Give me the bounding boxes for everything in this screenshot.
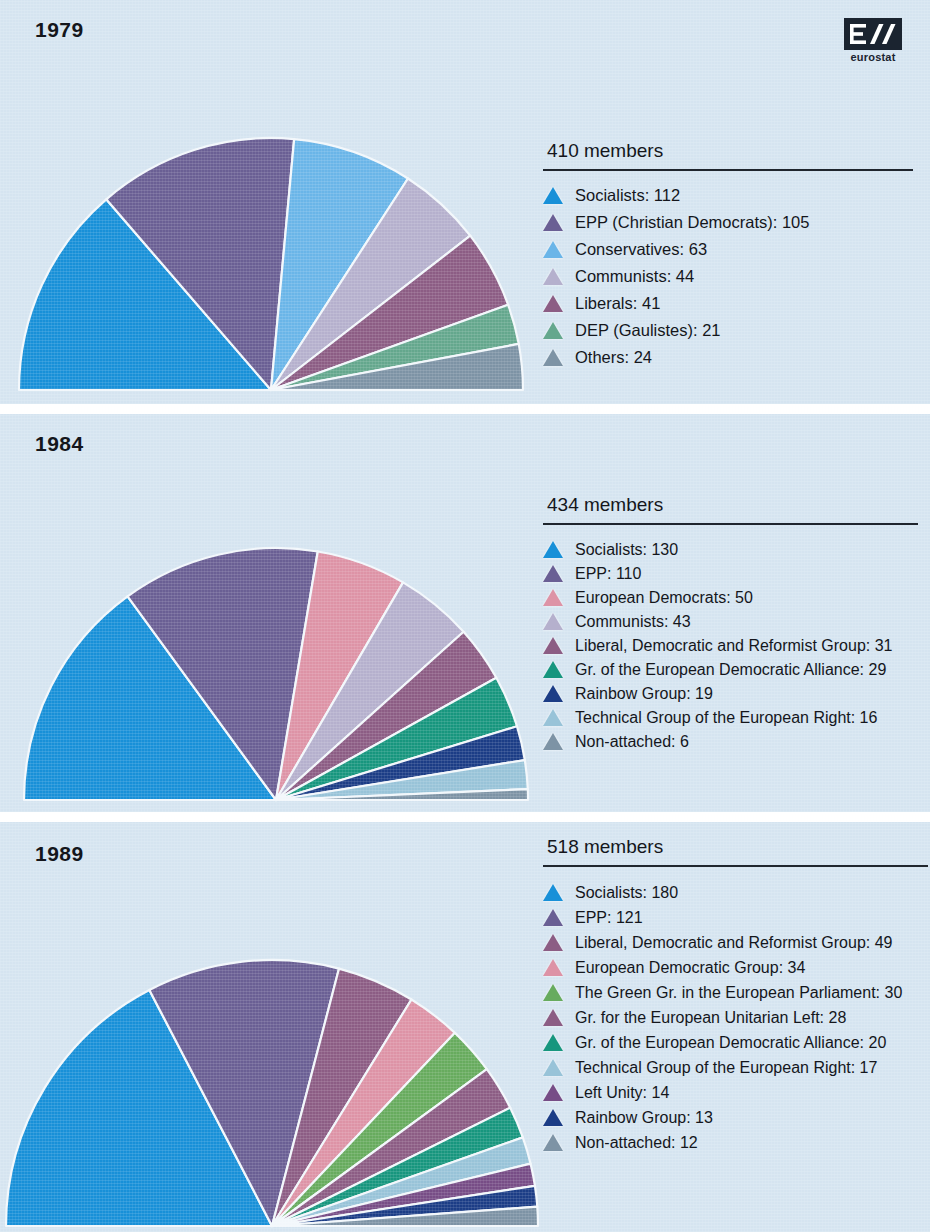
legend-item-label: Gr. of the European Democratic Alliance:… [575, 1034, 886, 1052]
legend-item-label: Left Unity: 14 [575, 1084, 669, 1102]
legend-item[interactable]: Socialists: 112 [543, 184, 913, 207]
legend-item-label: Socialists: 180 [575, 884, 678, 902]
members-total-1984: 434 members [547, 494, 918, 516]
legend-item-label: Rainbow Group: 13 [575, 1109, 713, 1127]
legend-item[interactable]: Socialists: 180 [543, 880, 928, 905]
legend-item[interactable]: EPP (Christian Democrats): 105 [543, 211, 913, 234]
legend-item[interactable]: Liberals: 41 [543, 292, 913, 315]
legend-divider [543, 169, 913, 171]
legend-1989: 518 members Socialists: 180EPP: 121Liber… [543, 836, 928, 1155]
members-total-1979: 410 members [547, 140, 913, 162]
legend-item-label: EPP: 110 [575, 565, 641, 583]
legend-triangle-icon [543, 541, 563, 558]
members-total-1989: 518 members [547, 836, 928, 858]
legend-item[interactable]: Technical Group of the European Right: 1… [543, 706, 918, 729]
legend-triangle-icon [543, 214, 563, 231]
legend-item[interactable]: Rainbow Group: 13 [543, 1105, 928, 1130]
legend-item-label: Communists: 43 [575, 613, 691, 631]
legend-item[interactable]: Conservatives: 63 [543, 238, 913, 261]
legend-item-label: Technical Group of the European Right: 1… [575, 709, 877, 727]
eurostat-logo: eurostat [844, 18, 906, 63]
legend-triangle-icon [543, 1109, 563, 1126]
legend-divider [543, 523, 918, 525]
legend-item[interactable]: Gr. for the European Unitarian Left: 28 [543, 1005, 928, 1030]
legend-item[interactable]: Gr. of the European Democratic Alliance:… [543, 658, 918, 681]
legend-triangle-icon [543, 984, 563, 1001]
legend-triangle-icon [543, 709, 563, 726]
eurostat-mark-icon [844, 18, 902, 50]
legend-item[interactable]: Left Unity: 14 [543, 1080, 928, 1105]
legend-triangle-icon [543, 349, 563, 366]
legend-item-label: Liberal, Democratic and Reformist Group:… [575, 637, 892, 655]
legend-item[interactable]: Socialists: 130 [543, 538, 918, 561]
legend-item-label: Non-attached: 12 [575, 1134, 698, 1152]
page-title-1989: 1989 [35, 842, 84, 866]
legend-item[interactable]: Others: 24 [543, 346, 913, 369]
legend-triangle-icon [543, 685, 563, 702]
legend-item-label: European Democrats: 50 [575, 589, 753, 607]
page-title-1979: 1979 [35, 18, 84, 42]
legend-item[interactable]: Non-attached: 12 [543, 1130, 928, 1155]
legend-triangle-icon [543, 295, 563, 312]
legend-item[interactable]: EPP: 121 [543, 905, 928, 930]
legend-1984: 434 members Socialists: 130EPP: 110Europ… [543, 494, 918, 754]
panel-1979: 1979 eurostat 410 members Socialists: 11… [0, 0, 930, 404]
legend-triangle-icon [543, 733, 563, 750]
legend-item[interactable]: DEP (Gaulistes): 21 [543, 319, 913, 342]
legend-item[interactable]: Liberal, Democratic and Reformist Group:… [543, 634, 918, 657]
eurostat-wordmark: eurostat [844, 51, 902, 63]
legend-triangle-icon [543, 959, 563, 976]
legend-item[interactable]: The Green Gr. in the European Parliament… [543, 980, 928, 1005]
legend-list-1984: Socialists: 130EPP: 110European Democrat… [543, 538, 918, 753]
legend-item-label: Communists: 44 [575, 267, 694, 286]
legend-item-label: Liberal, Democratic and Reformist Group:… [575, 934, 892, 952]
legend-item-label: Liberals: 41 [575, 294, 660, 313]
legend-triangle-icon [543, 241, 563, 258]
legend-triangle-icon [543, 589, 563, 606]
legend-item-label: The Green Gr. in the European Parliament… [575, 984, 902, 1002]
legend-triangle-icon [543, 1084, 563, 1101]
legend-item-label: Technical Group of the European Right: 1… [575, 1059, 877, 1077]
legend-triangle-icon [543, 661, 563, 678]
legend-item-label: Socialists: 112 [575, 186, 680, 205]
legend-triangle-icon [543, 909, 563, 926]
legend-triangle-icon [543, 934, 563, 951]
panel-1989: 1989 518 members Socialists: 180EPP: 121… [0, 822, 930, 1232]
legend-item[interactable]: Gr. of the European Democratic Alliance:… [543, 1030, 928, 1055]
legend-triangle-icon [543, 565, 563, 582]
legend-list-1989: Socialists: 180EPP: 121Liberal, Democrat… [543, 880, 928, 1155]
legend-triangle-icon [543, 268, 563, 285]
legend-triangle-icon [543, 322, 563, 339]
legend-triangle-icon [543, 1009, 563, 1026]
legend-item[interactable]: Technical Group of the European Right: 1… [543, 1055, 928, 1080]
legend-item-label: Others: 24 [575, 348, 652, 367]
legend-item-label: Conservatives: 63 [575, 240, 707, 259]
legend-item-label: EPP (Christian Democrats): 105 [575, 213, 809, 232]
panel-1984: 1984 434 members Socialists: 130EPP: 110… [0, 414, 930, 812]
legend-item-label: Gr. of the European Democratic Alliance:… [575, 661, 886, 679]
legend-1979: 410 members Socialists: 112EPP (Christia… [543, 140, 913, 373]
legend-item-label: Socialists: 130 [575, 541, 678, 559]
legend-triangle-icon [543, 1034, 563, 1051]
legend-item[interactable]: European Democratic Group: 34 [543, 955, 928, 980]
legend-list-1979: Socialists: 112EPP (Christian Democrats)… [543, 184, 913, 369]
legend-item[interactable]: Communists: 43 [543, 610, 918, 633]
legend-divider [543, 865, 928, 867]
legend-item-label: EPP: 121 [575, 909, 643, 927]
legend-triangle-icon [543, 187, 563, 204]
legend-triangle-icon [543, 637, 563, 654]
legend-triangle-icon [543, 613, 563, 630]
legend-item-label: DEP (Gaulistes): 21 [575, 321, 721, 340]
legend-item-label: Gr. for the European Unitarian Left: 28 [575, 1009, 846, 1027]
legend-item[interactable]: Rainbow Group: 19 [543, 682, 918, 705]
page-title-1984: 1984 [35, 432, 84, 456]
legend-item-label: Non-attached: 6 [575, 733, 689, 751]
legend-item-label: European Democratic Group: 34 [575, 959, 805, 977]
legend-item-label: Rainbow Group: 19 [575, 685, 713, 703]
legend-item[interactable]: Liberal, Democratic and Reformist Group:… [543, 930, 928, 955]
legend-triangle-icon [543, 1059, 563, 1076]
legend-item[interactable]: EPP: 110 [543, 562, 918, 585]
legend-item[interactable]: European Democrats: 50 [543, 586, 918, 609]
legend-item[interactable]: Communists: 44 [543, 265, 913, 288]
legend-item[interactable]: Non-attached: 6 [543, 730, 918, 753]
